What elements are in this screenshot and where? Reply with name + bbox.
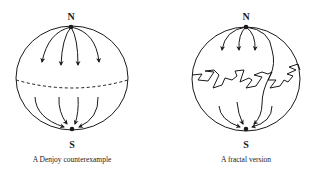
north-pole-dot (69, 25, 74, 30)
fractal-sphere (192, 25, 300, 132)
north-label: N (67, 11, 74, 22)
caption-denjoy: A Denjoy counterexample (33, 155, 112, 164)
equator-dashed (16, 80, 128, 88)
south-label: S (243, 139, 249, 150)
sphere-outline (16, 26, 128, 130)
caption-fractal: A fractal version (221, 155, 271, 164)
south-label: S (69, 139, 75, 150)
south-flow-line (219, 106, 240, 127)
south-pole-dot (70, 127, 75, 132)
south-flow-line (35, 97, 64, 127)
north-flow-line (239, 27, 246, 50)
north-flow-line (71, 27, 78, 65)
south-flow-line (59, 97, 67, 124)
south-pole-dot (244, 127, 249, 132)
fractal-boundary (192, 70, 272, 88)
denjoy-sphere (16, 25, 128, 132)
north-label: N (242, 11, 249, 22)
north-flow-line (42, 27, 71, 62)
north-flow-line (61, 27, 71, 65)
north-pole-dot (244, 25, 249, 30)
south-flow-line (79, 97, 98, 127)
north-flow-line (246, 27, 255, 50)
south-flow-line (75, 97, 78, 124)
north-flow-line (71, 27, 99, 62)
diagram-canvas (0, 0, 313, 175)
south-flow-line (237, 102, 243, 124)
